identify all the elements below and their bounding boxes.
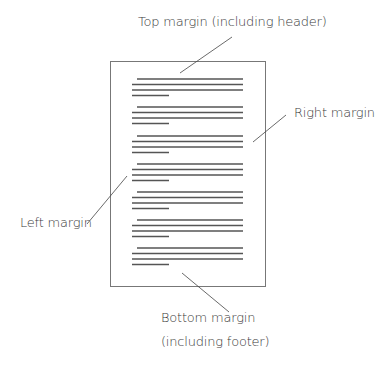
bottom-margin-label: Bottom margin	[161, 310, 255, 325]
left-margin-label: Left margin	[20, 215, 92, 230]
top-margin-label: Top margin (including header)	[138, 14, 327, 29]
bottom-margin-sublabel: (including footer)	[161, 334, 269, 349]
right-margin-label: Right margin	[294, 105, 375, 120]
